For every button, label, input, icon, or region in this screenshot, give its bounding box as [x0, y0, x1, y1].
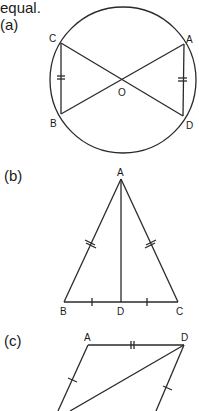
- right-side: [156, 345, 184, 411]
- point-d-label: D: [117, 306, 124, 317]
- figure-b-triangle-diagram: A B D C: [60, 167, 183, 317]
- point-a-label: A: [84, 332, 91, 343]
- chord-ad: [183, 44, 184, 116]
- figure-a-circle-diagram: C A B D O: [49, 7, 196, 153]
- point-d-label: D: [181, 332, 188, 343]
- point-c-label: C: [49, 33, 56, 44]
- point-a-label: A: [117, 167, 124, 178]
- point-d-label: D: [186, 120, 193, 131]
- figure-c-quadrilateral-diagram: A D: [58, 332, 188, 411]
- point-a-label: A: [186, 34, 193, 45]
- point-b-label: B: [60, 306, 67, 317]
- point-o-label: O: [118, 87, 126, 98]
- point-b-label: B: [50, 118, 57, 129]
- side-ab: [64, 179, 121, 302]
- diagonal: [70, 345, 184, 411]
- geometry-diagrams: C A B D O A B D C: [0, 0, 199, 411]
- side-ac: [121, 179, 178, 302]
- left-side: [58, 345, 88, 411]
- point-c-label: C: [176, 306, 183, 317]
